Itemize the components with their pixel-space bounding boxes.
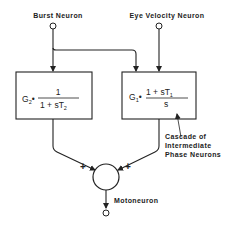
right-plus-sign: +: [125, 161, 131, 172]
right-numerator: 1 + sT: [146, 87, 170, 97]
right-numerator-sub: 1: [170, 92, 173, 98]
left-denominator-sub: 2: [64, 105, 67, 111]
left-denominator: 1 + sT: [40, 100, 64, 110]
summation-junction: [93, 164, 119, 190]
svg-text:G1•: G1•: [129, 92, 142, 103]
svg-text:1 + sT2: 1 + sT2: [40, 100, 67, 111]
left-plus-sign: +: [80, 161, 86, 172]
annotation-line-3: Phase Neurons: [165, 151, 221, 158]
left-numerator: 1: [56, 87, 61, 97]
motoneuron-node: [103, 210, 109, 216]
burst-neuron-label: Burst Neuron: [33, 12, 83, 19]
right-denominator: s: [164, 99, 168, 109]
burst-neuron-node: [50, 23, 56, 29]
eye-velocity-neuron-node: [156, 23, 162, 29]
motoneuron-label: Motoneuron: [114, 197, 158, 204]
block-diagram: Burst Neuron Eye Velocity Neuron G2• 1 1…: [0, 0, 231, 226]
burst-to-right-block-arrow: [53, 48, 136, 71]
svg-text:1 + sT1: 1 + sT1: [146, 87, 173, 98]
annotation-line-1: Cascade of: [165, 133, 207, 140]
left-block-to-sum-arrow: [53, 119, 95, 170]
left-gain: G: [22, 94, 29, 104]
annotation-line-2: Intermediate: [165, 142, 211, 149]
svg-text:G2•: G2•: [22, 94, 35, 105]
right-gain: G: [129, 92, 136, 102]
eye-velocity-neuron-label: Eye Velocity Neuron: [130, 12, 205, 20]
